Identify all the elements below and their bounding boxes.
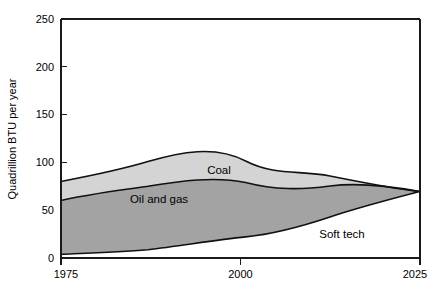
- y-tick-label-250: 250: [36, 13, 54, 25]
- series-label-soft-tech: Soft tech: [319, 228, 364, 240]
- series-label-coal: Coal: [207, 164, 231, 176]
- y-tick-label-200: 200: [36, 61, 54, 73]
- x-tick-label-2025: 2025: [403, 268, 427, 280]
- series-label-oil-and-gas: Oil and gas: [130, 193, 188, 205]
- x-tick-label-1975: 1975: [54, 268, 78, 280]
- y-tick-label-50: 50: [42, 204, 54, 216]
- y-tick-label-0: 0: [48, 252, 54, 264]
- y-tick-label-150: 150: [36, 108, 54, 120]
- energy-projection-area-chart: Quadrillion BTU per year 250 200 150 100…: [0, 0, 440, 291]
- chart-figure: Quadrillion BTU per year 250 200 150 100…: [0, 0, 440, 291]
- y-tick-label-100: 100: [36, 156, 54, 168]
- y-axis-title: Quadrillion BTU per year: [6, 78, 18, 199]
- x-tick-label-2000: 2000: [228, 268, 252, 280]
